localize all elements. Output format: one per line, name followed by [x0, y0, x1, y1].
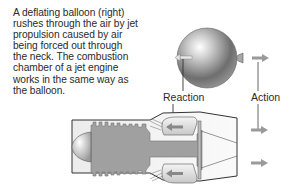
- balloon-illustration: [175, 28, 243, 91]
- action-label: Action: [251, 91, 280, 103]
- jet-engine-illustration: [72, 112, 237, 183]
- reaction-label: Reaction: [163, 91, 204, 103]
- action-arrow-icon: [252, 54, 269, 62]
- action-arrow-icon: [251, 159, 268, 167]
- action-arrow-icon: [251, 126, 268, 134]
